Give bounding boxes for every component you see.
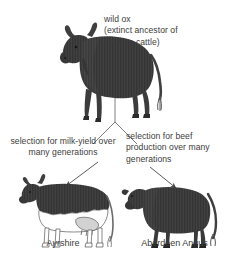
right-selection-label: selection for beef production over many … [126,131,226,165]
arrow-down-left-icon [66,162,98,186]
aberdeen-angus-caption: Aberdeen Angus [118,238,231,249]
ayrshire-caption: Ayrshire [0,238,126,249]
left-selection-label: selection for milk-yield over many gener… [4,136,122,159]
arrow-down-right-icon [150,167,176,188]
ayrshire-cow-icon [19,174,113,247]
selective-breeding-diagram: wild ox (extinct ancestor of modern catt… [0,0,231,267]
wild-ox-title-label: wild ox (extinct ancestor of modern catt… [104,14,178,48]
